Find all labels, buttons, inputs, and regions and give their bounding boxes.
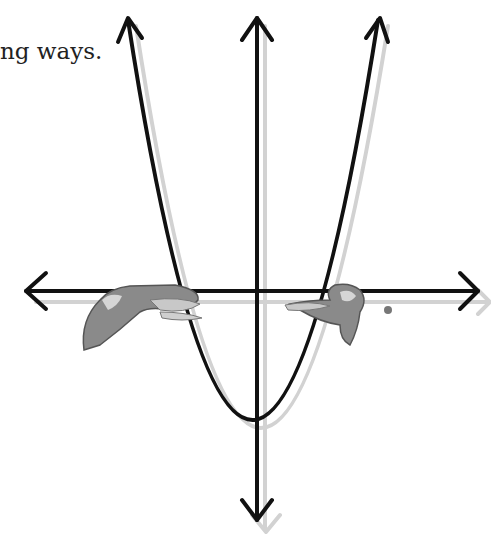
parabola-curve bbox=[118, 18, 388, 420]
left-figure-icon bbox=[83, 285, 202, 350]
parabola-diagram bbox=[0, 0, 491, 537]
right-figure-icon bbox=[285, 284, 392, 345]
y-axis bbox=[242, 18, 272, 520]
shadow-layer bbox=[36, 26, 490, 532]
